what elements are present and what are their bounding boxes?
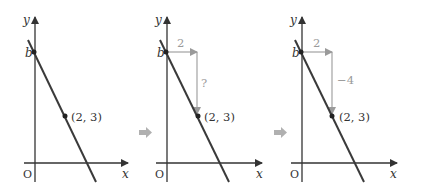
- point-label: (2, 3): [204, 110, 235, 124]
- x-axis-label: x: [256, 167, 263, 181]
- given-point: [63, 114, 68, 119]
- origin-label: O: [290, 168, 299, 181]
- intercept-label: b: [157, 46, 165, 60]
- origin-label: O: [155, 168, 164, 181]
- x-axis-label: x: [122, 167, 129, 181]
- slope-diagram-sequence: y x O b (2, 3) y x O b 2 ? (2, 3): [0, 0, 421, 193]
- given-point: [330, 114, 335, 119]
- y-axis-label: y: [22, 13, 30, 27]
- panel-1: y x O b (2, 3): [22, 13, 129, 182]
- origin-label: O: [23, 168, 32, 181]
- next-step-arrow-icon: [274, 127, 287, 138]
- next-step-arrow-icon: [139, 127, 152, 138]
- given-point: [196, 114, 201, 119]
- panel-3: y x O b 2 −4 (2, 3): [289, 13, 397, 182]
- point-label: (2, 3): [339, 110, 370, 124]
- intercept-label: b: [25, 46, 33, 60]
- rise-label: −4: [337, 73, 354, 87]
- y-axis-label: y: [289, 13, 297, 27]
- panel-2: y x O b 2 ? (2, 3): [154, 13, 263, 182]
- rise-label: ?: [201, 76, 207, 90]
- run-label: 2: [313, 36, 320, 50]
- y-axis-label: y: [154, 13, 162, 27]
- intercept-label: b: [292, 46, 300, 60]
- x-axis-label: x: [390, 167, 397, 181]
- run-label: 2: [177, 36, 184, 50]
- point-label: (2, 3): [71, 110, 102, 124]
